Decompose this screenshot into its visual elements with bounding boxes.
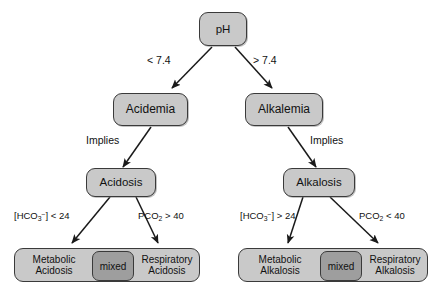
- node-acidemia-label: Acidemia: [124, 103, 177, 116]
- node-acidemia[interactable]: Acidemia: [113, 93, 188, 126]
- node-ph[interactable]: pH: [199, 12, 247, 46]
- edge-label-hco3-right: [HCO3−] > 24: [240, 210, 296, 222]
- node-alkalemia[interactable]: Alkalemia: [245, 93, 323, 126]
- outcome-mixed-alkalosis-label: mixed: [328, 261, 355, 272]
- edge-label-pco2-left: PCO2 > 40: [138, 210, 184, 222]
- edge-label-hco3-left: [HCO3−] < 24: [14, 210, 70, 222]
- node-alkalosis-label: Alkalosis: [294, 176, 343, 189]
- edge-acidemia-to-acidosis: [123, 127, 151, 167]
- outcome-metabolic-alkalosis-line2: Alkalosis: [260, 265, 299, 276]
- node-alkalemia-label: Alkalemia: [256, 103, 312, 116]
- node-alkalosis[interactable]: Alkalosis: [283, 168, 355, 197]
- edge-alkalemia-to-alkalosis: [288, 127, 316, 167]
- outcome-metabolic-alkalosis[interactable]: Metabolic Alkalosis: [241, 249, 319, 281]
- outcome-respiratory-alkalosis-line2: Alkalosis: [375, 265, 414, 276]
- node-acidosis[interactable]: Acidosis: [86, 168, 156, 197]
- outcome-respiratory-acidosis[interactable]: Respiratory Acidosis: [135, 249, 199, 281]
- outcome-mixed-acidosis[interactable]: mixed: [92, 251, 134, 281]
- diagram-canvas: pH Acidemia Alkalemia Acidosis Alkalosis…: [0, 0, 439, 299]
- outcome-metabolic-alkalosis-line1: Metabolic: [259, 254, 302, 265]
- outcome-respiratory-acidosis-line1: Respiratory: [141, 254, 192, 265]
- outcome-mixed-acidosis-label: mixed: [100, 261, 127, 272]
- edge-label-ph-left: < 7.4: [147, 54, 171, 66]
- node-acidosis-label: Acidosis: [98, 176, 145, 189]
- outcome-metabolic-acidosis[interactable]: Metabolic Acidosis: [17, 249, 91, 281]
- outcome-respiratory-alkalosis[interactable]: Respiratory Alkalosis: [363, 249, 427, 281]
- outcome-metabolic-acidosis-line2: Acidosis: [35, 265, 72, 276]
- node-ph-label: pH: [214, 23, 233, 36]
- edge-label-implies-right: Implies: [310, 134, 343, 146]
- outcome-respiratory-acidosis-line2: Acidosis: [148, 265, 185, 276]
- edge-label-pco2-right: PCO2 < 40: [359, 210, 405, 222]
- edge-acidosis-to-metabolic: [72, 197, 110, 243]
- outcome-bar-alkalosis: Metabolic Alkalosis mixed Respiratory Al…: [238, 248, 428, 282]
- outcome-mixed-alkalosis[interactable]: mixed: [320, 251, 362, 281]
- edge-label-ph-right: > 7.4: [253, 54, 277, 66]
- outcome-metabolic-acidosis-line1: Metabolic: [33, 254, 76, 265]
- outcome-bar-acidosis: Metabolic Acidosis mixed Respiratory Aci…: [14, 248, 200, 282]
- edge-ph-to-acidemia: [172, 47, 212, 88]
- outcome-respiratory-alkalosis-line1: Respiratory: [369, 254, 420, 265]
- edge-label-implies-left: Implies: [86, 134, 119, 146]
